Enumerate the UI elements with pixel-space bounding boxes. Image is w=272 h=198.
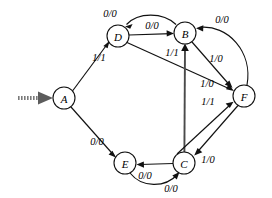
edge-label-b-d: 0/0 — [103, 8, 117, 19]
state-label-f: F — [240, 91, 248, 103]
edge-label-d-f: 1/0 — [200, 78, 214, 89]
state-label-a: A — [60, 93, 68, 105]
edge-d-f — [127, 43, 234, 91]
edge-label-c-b: 1/1 — [165, 47, 178, 58]
fsm-canvas: A D B F E C 1/1 0/0 0/0 0/0 1/0 1/0 0/0 … — [0, 0, 272, 198]
edge-label-a-d: 1/1 — [92, 52, 105, 63]
state-node-d[interactable]: D — [107, 25, 129, 47]
edge-c-e — [137, 162, 174, 168]
edge-label-b-f: 1/0 — [209, 53, 223, 64]
state-label-e: E — [121, 158, 129, 170]
edge-f-c — [194, 106, 238, 156]
state-node-a[interactable]: A — [53, 87, 75, 109]
edge-label-c-f: 1/1 — [201, 96, 214, 107]
edge-label-f-c: 1/0 — [201, 154, 215, 165]
state-node-b[interactable]: B — [174, 22, 196, 44]
state-label-c: C — [180, 158, 188, 170]
edge-label-d-b: 0/0 — [145, 20, 159, 31]
state-node-e[interactable]: E — [114, 152, 136, 174]
state-node-c[interactable]: C — [173, 152, 195, 174]
edge-a-e — [71, 107, 116, 158]
state-machine-diagram: A D B F E C 1/1 0/0 0/0 0/0 1/0 1/0 0/0 … — [0, 0, 272, 198]
edge-label-f-b: 0/0 — [215, 14, 229, 25]
edge-a-d — [73, 41, 110, 91]
edge-label-a-e: 0/0 — [90, 136, 104, 147]
state-node-f[interactable]: F — [233, 85, 255, 107]
edge-d-b — [129, 30, 174, 36]
state-label-d: D — [113, 31, 122, 43]
initial-state-arrow — [18, 92, 53, 105]
edge-label-e-c: 0/0 — [164, 183, 178, 194]
edge-c-b — [181, 44, 189, 153]
edge-label-c-e: 0/0 — [138, 170, 152, 181]
state-label-b: B — [182, 28, 189, 40]
